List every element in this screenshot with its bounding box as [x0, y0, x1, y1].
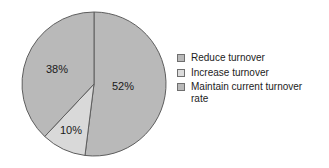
legend-item-reduce-turnover[interactable]: Reduce turnover	[177, 52, 327, 64]
legend-item-maintain-current-turnover-rate[interactable]: Maintain current turnover rate	[177, 81, 327, 104]
legend-item-label: Maintain current turnover rate	[191, 81, 302, 104]
legend-swatch-icon	[177, 54, 185, 62]
pie-chart-figure: 52% 10% 38% Reduce turnover Increase tur…	[0, 0, 329, 168]
legend-item-increase-turnover[interactable]: Increase turnover	[177, 67, 327, 79]
legend-item-label: Reduce turnover	[191, 52, 265, 64]
legend-item-label: Increase turnover	[191, 67, 269, 79]
pie-slice-label-increase-turnover: 10%	[60, 124, 82, 136]
pie-slice-label-reduce-turnover: 52%	[112, 80, 134, 92]
legend-swatch-icon	[177, 83, 185, 91]
pie-slice-label-maintain-current-turnover-rate: 38%	[46, 63, 68, 75]
pie-slices	[22, 12, 166, 156]
legend-swatch-icon	[177, 69, 185, 77]
chart-legend: Reduce turnover Increase turnover Mainta…	[177, 52, 327, 107]
